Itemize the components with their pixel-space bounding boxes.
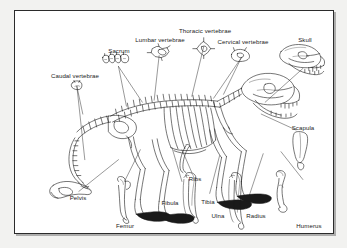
scapula-inset xyxy=(293,132,308,170)
label-sacrum: Sacrum xyxy=(108,48,129,54)
label-ribs: Ribs xyxy=(189,176,202,182)
lumbar-vertebra-inset xyxy=(147,44,170,61)
label-ulna: Ulna xyxy=(212,213,225,219)
label-tibia: Tibia xyxy=(201,199,214,205)
sacrum-pelvis-region xyxy=(77,115,137,147)
label-femur: Femur xyxy=(116,223,134,229)
vertebral-column xyxy=(111,94,220,122)
label-lumbar-vertebrae: Lumbar vertebrae xyxy=(135,37,184,43)
label-scapula: Scapula xyxy=(292,125,315,131)
label-thoracic-vertebrae: Thoracic vertebrae xyxy=(179,28,231,34)
femur-inset xyxy=(117,177,130,224)
label-pelvis: Pelvis xyxy=(70,195,87,201)
label-humerus: Humerus xyxy=(296,223,321,229)
cervical-and-skull xyxy=(218,73,300,118)
thoracic-vertebra-inset xyxy=(193,38,215,59)
skeleton-diagram-figure: Caudal vertebrae Sacrum Lumbar vertebrae… xyxy=(14,10,334,234)
label-skull: Skull xyxy=(298,37,312,43)
label-fibula: Fibula xyxy=(161,200,178,206)
label-radius: Radius xyxy=(246,213,265,219)
skull-inset xyxy=(280,45,325,75)
label-caudal-vertebrae: Caudal vertebrae xyxy=(51,73,99,79)
humerus-inset xyxy=(276,171,287,213)
tail-vertebrae xyxy=(69,138,89,189)
label-cervical-vertebrae: Cervical vertebrae xyxy=(218,39,269,45)
sacrum-inset xyxy=(103,53,129,63)
leader-lines xyxy=(77,47,303,196)
hind-limbs xyxy=(128,137,194,223)
caudal-vertebra-inset xyxy=(71,80,82,89)
